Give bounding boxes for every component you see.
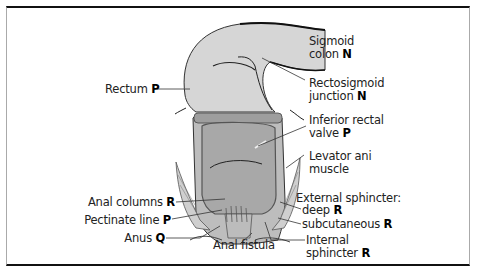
label-text: valve [309,126,339,140]
label-text: Pectinate line [84,213,159,227]
label-text: deep [302,203,330,217]
label-text: muscle [309,163,371,176]
sigmoid-colon-shape [184,23,325,112]
label-code: R [384,217,393,231]
label-code: R [166,195,175,209]
label-code: R [333,203,342,217]
label-external-sphincter-deep: deep R [302,204,342,217]
label-text: Anus [124,231,152,245]
label-text: sphincter [306,246,358,260]
label-code: R [361,246,370,260]
anorectal-anatomy-illustration [0,0,478,273]
label-text: Anal columns [88,195,163,209]
label-external-sphincter-subcutaneous: subcutaneous R [302,218,392,231]
label-text: colon [309,47,339,61]
label-code: P [151,82,159,96]
label-pectinate-line: Pectinate line P [60,214,171,227]
label-inferior-rectal-valve: Inferior rectal valve P [309,114,384,140]
label-code: N [342,47,351,61]
label-levator-ani-muscle: Levator ani muscle [309,150,371,176]
label-anal-columns: Anal columns R [60,196,175,209]
label-text: subcutaneous [302,217,380,231]
label-code: P [163,213,171,227]
label-anus: Anus Q [90,232,165,245]
label-rectum: Rectum P [105,83,159,96]
label-rectosigmoid-junction: Rectosigmoid junction N [309,77,384,103]
label-internal-sphincter: Internal sphincter R [306,234,370,260]
label-code: Q [155,231,165,245]
label-text: Anal fistula [213,238,275,252]
anal-canal [225,214,252,238]
label-sigmoid-colon: Sigmoid colon N [309,35,354,61]
rectal-lumen [202,122,276,214]
label-text: junction [309,89,354,103]
label-code: N [357,89,366,103]
label-text: Rectum [105,82,148,96]
label-code: P [342,126,350,140]
label-anal-fistula: Anal fistula [213,239,275,252]
